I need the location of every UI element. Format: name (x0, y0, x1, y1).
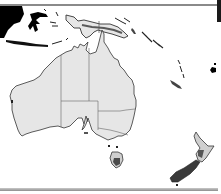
kangaroo-island (84, 132, 88, 134)
fiji-islet (214, 63, 216, 65)
map-frame-bottom (0, 188, 218, 191)
map-frame-top (0, 4, 218, 6)
map-frame-right (217, 0, 221, 22)
perth-marker (11, 100, 13, 103)
map-canvas (0, 0, 221, 194)
stewart-island (176, 184, 178, 186)
